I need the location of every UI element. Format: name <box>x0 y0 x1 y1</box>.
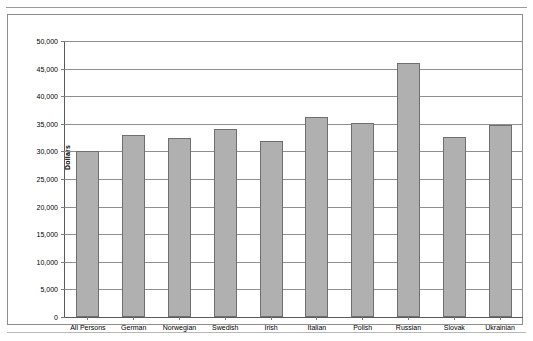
x-tick-slot <box>386 317 432 321</box>
plot-area: 50,00045,00040,00035,00030,00025,00020,0… <box>65 41 523 317</box>
bar-irish[interactable] <box>260 141 283 317</box>
x-axis-category-label: All Persons <box>65 324 111 331</box>
bar-russian[interactable] <box>397 63 420 317</box>
x-tick-slot <box>431 317 477 321</box>
x-tick-slot <box>111 317 157 321</box>
top-divider-rule <box>6 7 527 8</box>
x-axis-category-label: Russian <box>386 324 432 331</box>
y-axis-tick-label: 35,000 <box>37 120 58 127</box>
x-tick-slot <box>477 317 523 321</box>
y-axis-tick-label: 40,000 <box>37 93 58 100</box>
x-tick-mark <box>87 317 88 320</box>
bar-slovak[interactable] <box>443 137 466 318</box>
x-axis-category-label: German <box>111 324 157 331</box>
x-axis-category-label: Irish <box>248 324 294 331</box>
bar-slot <box>340 41 386 317</box>
x-tick-mark <box>271 317 272 320</box>
bar-german[interactable] <box>122 135 145 317</box>
x-tick-slot <box>157 317 203 321</box>
bar-slot <box>111 41 157 317</box>
y-axis-tick-label: 20,000 <box>37 203 58 210</box>
x-axis-labels-group: All PersonsGermanNorwegianSwedishIrishIt… <box>65 324 523 331</box>
x-tick-slot <box>248 317 294 321</box>
bar-norwegian[interactable] <box>168 138 191 317</box>
bars-group <box>65 41 523 317</box>
y-axis-tick-label: 25,000 <box>37 176 58 183</box>
y-axis-tick-label: 10,000 <box>37 258 58 265</box>
x-tick-mark <box>500 317 501 320</box>
x-tick-slot <box>202 317 248 321</box>
x-tick-slot <box>294 317 340 321</box>
y-axis-tick-label: 50,000 <box>37 38 58 45</box>
x-tick-mark <box>316 317 317 320</box>
x-axis-category-label: Slovak <box>431 324 477 331</box>
bar-slot <box>477 41 523 317</box>
y-axis-tick-label: 0 <box>54 314 58 321</box>
x-tick-mark <box>454 317 455 320</box>
x-tick-mark <box>408 317 409 320</box>
y-axis-tick-label: 5,000 <box>40 286 58 293</box>
bar-slot <box>202 41 248 317</box>
bar-slot <box>248 41 294 317</box>
bar-slot <box>65 41 111 317</box>
bar-ukrainian[interactable] <box>489 125 512 317</box>
y-axis-tick-label: 30,000 <box>37 148 58 155</box>
x-axis-ticks-group <box>65 317 523 321</box>
chart-frame: Dollars 50,00045,00040,00035,00030,00025… <box>7 14 523 325</box>
x-axis-category-label: Italian <box>294 324 340 331</box>
bottom-divider-rule <box>7 332 526 333</box>
y-axis-tick-label: 15,000 <box>37 231 58 238</box>
x-tick-slot <box>340 317 386 321</box>
y-axis-tick-label: 45,000 <box>37 65 58 72</box>
x-axis-category-label: Polish <box>340 324 386 331</box>
x-tick-slot <box>65 317 111 321</box>
bar-slot <box>386 41 432 317</box>
bar-polish[interactable] <box>351 123 374 317</box>
x-axis-category-label: Norwegian <box>157 324 203 331</box>
bar-swedish[interactable] <box>214 129 237 317</box>
bar-slot <box>431 41 477 317</box>
bar-all-persons[interactable] <box>76 151 99 317</box>
bar-slot <box>294 41 340 317</box>
bar-italian[interactable] <box>305 117 328 317</box>
x-tick-mark <box>225 317 226 320</box>
bar-slot <box>157 41 203 317</box>
x-tick-mark <box>362 317 363 320</box>
x-axis-category-label: Ukrainian <box>477 324 523 331</box>
x-tick-mark <box>179 317 180 320</box>
x-tick-mark <box>133 317 134 320</box>
x-axis-category-label: Swedish <box>202 324 248 331</box>
